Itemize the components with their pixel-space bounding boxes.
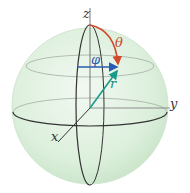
theta-label: θ [115,35,123,50]
x-axis-label: x [51,129,59,144]
phi-label: φ [91,52,101,67]
sphere-figure: z y x θ φ r [0,0,190,193]
y-axis-label: y [169,96,178,111]
z-axis-label: z [82,6,90,21]
r-label: r [110,76,117,91]
spherical-coordinates-diagram: z y x θ φ r [0,0,190,193]
